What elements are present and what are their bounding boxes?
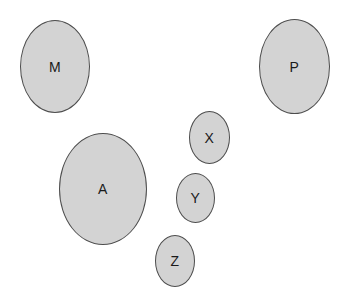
ellipse-label: P bbox=[290, 60, 300, 74]
ellipse-label: M bbox=[49, 60, 61, 74]
ellipse-label: X bbox=[205, 131, 215, 145]
ellipse-m: M bbox=[20, 20, 90, 113]
diagram-canvas: MPXAYZ bbox=[0, 0, 344, 297]
ellipse-y: Y bbox=[176, 173, 215, 223]
ellipse-p: P bbox=[259, 19, 330, 114]
ellipse-z: Z bbox=[155, 235, 195, 287]
ellipse-x: X bbox=[189, 111, 230, 164]
ellipse-label: Y bbox=[191, 191, 201, 205]
ellipse-label: Z bbox=[170, 254, 179, 268]
ellipse-a: A bbox=[59, 133, 147, 245]
ellipse-label: A bbox=[98, 182, 108, 196]
